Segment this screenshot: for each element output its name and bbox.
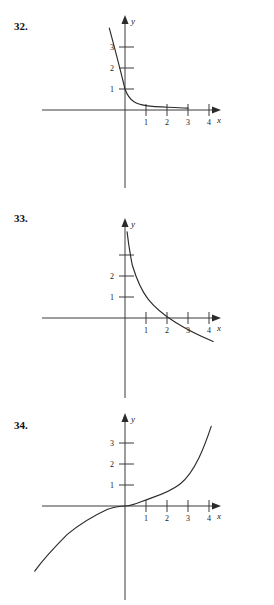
curve-log-decreasing bbox=[127, 232, 213, 342]
graph-32-plot: 1 2 3 4 1 2 3 x y bbox=[0, 0, 274, 190]
y-tick-label-2: 2 bbox=[110, 64, 114, 73]
y-tick-label-1: 1 bbox=[110, 293, 114, 302]
x-tick-label-2: 2 bbox=[165, 118, 169, 127]
x-tick-label-2: 2 bbox=[165, 514, 169, 523]
y-tick-label-1: 1 bbox=[110, 85, 114, 94]
figure-32: 32. 1 2 3 4 1 2 3 x y bbox=[0, 0, 274, 190]
figure-33: 33. 1 2 3 4 1 2 x y bbox=[0, 190, 274, 400]
x-tick-label-1: 1 bbox=[144, 514, 148, 523]
figure-34: 34. 1 2 3 4 1 2 3 x y bbox=[0, 400, 274, 605]
x-axis-label: x bbox=[216, 511, 221, 521]
y-axis-label: y bbox=[130, 219, 135, 229]
y-axis-arrow-icon bbox=[122, 218, 129, 227]
x-tick-label-1: 1 bbox=[144, 326, 148, 335]
y-tick-label-1: 1 bbox=[110, 481, 114, 490]
x-tick-label-1: 1 bbox=[144, 118, 148, 127]
y-axis-label: y bbox=[130, 16, 135, 26]
x-tick-label-4: 4 bbox=[207, 326, 211, 335]
x-tick-label-3: 3 bbox=[186, 118, 190, 127]
curve-cubic-increasing bbox=[35, 426, 212, 571]
y-tick-label-2: 2 bbox=[110, 272, 114, 281]
x-axis-arrow-icon bbox=[212, 503, 221, 510]
x-axis-arrow-icon bbox=[212, 107, 221, 114]
graph-34-plot: 1 2 3 4 1 2 3 x y bbox=[0, 400, 274, 605]
y-axis-arrow-icon bbox=[122, 413, 129, 422]
y-tick-label-2: 2 bbox=[110, 460, 114, 469]
x-tick-label-4: 4 bbox=[207, 514, 211, 523]
x-axis-label: x bbox=[216, 323, 221, 333]
x-tick-label-3: 3 bbox=[186, 514, 190, 523]
x-axis-arrow-icon bbox=[212, 315, 221, 322]
y-axis-arrow-icon bbox=[122, 15, 129, 24]
y-axis-label: y bbox=[130, 414, 135, 424]
x-tick-label-4: 4 bbox=[207, 118, 211, 127]
x-tick-label-2: 2 bbox=[165, 326, 169, 335]
x-axis-label: x bbox=[216, 115, 221, 125]
y-tick-label-3: 3 bbox=[110, 439, 114, 448]
graph-33-plot: 1 2 3 4 1 2 x y bbox=[0, 190, 274, 400]
